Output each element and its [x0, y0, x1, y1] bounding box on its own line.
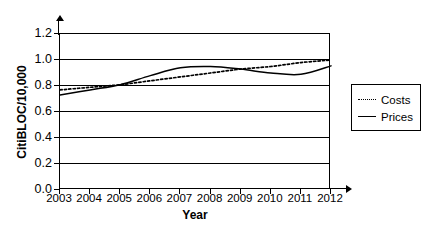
y-tick-label-1.2: 1.2 — [12, 27, 52, 39]
y-tick-label-0.8: 0.8 — [12, 79, 52, 91]
legend-label-costs: Costs — [381, 94, 410, 106]
series-lines — [60, 34, 331, 190]
y-tick-label-0.6: 0.6 — [12, 105, 52, 117]
y-tickmark-0.6 — [54, 111, 59, 112]
x-axis-title: Year — [130, 208, 260, 222]
legend-swatch-dotted-icon — [358, 95, 376, 105]
chart-legend: Costs Prices — [351, 84, 421, 131]
chart-figure: CitiBLOC/10,000 Year 1.2 1.0 0.8 0.6 0.4… — [0, 0, 429, 233]
legend-label-prices: Prices — [381, 111, 413, 123]
y-tick-label-0.2: 0.2 — [12, 157, 52, 169]
plot-area — [59, 33, 330, 189]
series-line-prices — [60, 66, 331, 95]
x-tick-label-2012: 2012 — [310, 192, 350, 204]
y-tickmark-1.0 — [54, 59, 59, 60]
y-tickmark-0.8 — [54, 85, 59, 86]
legend-swatch-solid-icon — [358, 112, 376, 122]
y-tickmark-0.2 — [54, 163, 59, 164]
y-tickmark-1.2 — [54, 33, 59, 34]
y-tick-label-1.0: 1.0 — [12, 53, 52, 65]
y-tickmark-0.4 — [54, 137, 59, 138]
y-tick-label-0.4: 0.4 — [12, 131, 52, 143]
legend-item-prices[interactable]: Prices — [358, 110, 413, 124]
x-axis-arrow — [330, 188, 346, 189]
legend-item-costs[interactable]: Costs — [358, 93, 410, 107]
